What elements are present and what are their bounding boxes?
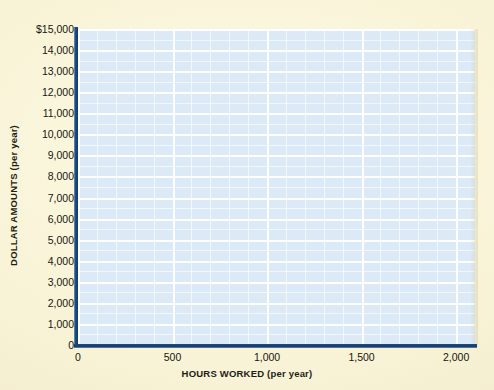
grid-line-vertical-major	[78, 29, 80, 345]
grid-line-horizontal-minor	[78, 313, 475, 314]
grid-line-vertical-minor	[437, 29, 438, 345]
grid-line-horizontal-major	[78, 282, 475, 284]
x-axis-tick-label: 0	[75, 351, 81, 363]
grid-line-vertical-minor	[210, 29, 211, 345]
y-axis-tick-label: 0	[14, 339, 74, 351]
y-axis-tick-label: 12,000	[14, 86, 74, 98]
grid-line-vertical-minor	[135, 29, 136, 345]
y-axis-tick-label: 7,000	[14, 192, 74, 204]
grid-line-horizontal-minor	[78, 145, 475, 146]
x-axis-tick-label: 500	[164, 351, 182, 363]
y-axis-tick-label: 1,000	[14, 318, 74, 330]
grid-line-horizontal-major	[78, 29, 475, 31]
grid-line-vertical-minor	[380, 29, 381, 345]
grid-line-horizontal-major	[78, 71, 475, 73]
y-axis-tick-label: 5,000	[14, 234, 74, 246]
grid-line-horizontal-major	[78, 198, 475, 200]
y-axis-tick-label: 6,000	[14, 213, 74, 225]
y-axis-tick-label: 14,000	[14, 44, 74, 56]
grid-line-vertical-minor	[248, 29, 249, 345]
grid-line-horizontal-major	[78, 303, 475, 305]
grid-line-horizontal-minor	[78, 82, 475, 83]
grid-line-horizontal-major	[78, 155, 475, 157]
grid-line-horizontal-major	[78, 50, 475, 52]
grid-line-horizontal-major	[78, 176, 475, 178]
grid-line-horizontal-minor	[78, 229, 475, 230]
y-axis-tick-label: 2,000	[14, 297, 74, 309]
y-axis-tick-label: 3,000	[14, 276, 74, 288]
grid-line-vertical-minor	[154, 29, 155, 345]
y-axis-tick-labels: 01,0002,0003,0004,0005,0006,0007,0008,00…	[14, 0, 74, 390]
grid-line-vertical-major	[173, 29, 175, 345]
x-axis-title-main: HOURS WORKED	[182, 368, 265, 379]
grid-line-vertical-minor	[305, 29, 306, 345]
grid-line-horizontal-minor	[78, 292, 475, 293]
x-axis-tick-label: 1,000	[254, 351, 280, 363]
grid-line-horizontal-minor	[78, 208, 475, 209]
grid-line-vertical-minor	[418, 29, 419, 345]
grid-line-vertical-major	[267, 29, 269, 345]
grid-line-vertical-minor	[116, 29, 117, 345]
y-axis-tick-label: 4,000	[14, 255, 74, 267]
grid-line-horizontal-major	[78, 92, 475, 94]
grid	[78, 29, 475, 345]
x-axis-tick-label: 1,500	[348, 351, 374, 363]
grid-line-horizontal-major	[78, 219, 475, 221]
grid-line-horizontal-major	[78, 324, 475, 326]
y-axis-line	[74, 27, 78, 348]
grid-line-horizontal-major	[78, 134, 475, 136]
x-axis-tick-label: 2,000	[443, 351, 469, 363]
grid-line-horizontal-minor	[78, 250, 475, 251]
x-axis-tick-labels: 05001,0001,5002,000	[0, 351, 494, 367]
y-axis-tick-label: 9,000	[14, 149, 74, 161]
grid-line-horizontal-minor	[78, 334, 475, 335]
grid-line-vertical-minor	[324, 29, 325, 345]
x-axis-title: HOURS WORKED (per year)	[0, 368, 494, 379]
grid-line-horizontal-minor	[78, 124, 475, 125]
grid-line-horizontal-minor	[78, 271, 475, 272]
grid-line-vertical-minor	[229, 29, 230, 345]
y-axis-tick-label: 11,000	[14, 107, 74, 119]
grid-line-horizontal-major	[78, 113, 475, 115]
grid-line-vertical-major	[456, 29, 458, 345]
grid-line-horizontal-minor	[78, 40, 475, 41]
grid-line-vertical-minor	[97, 29, 98, 345]
plot-area	[78, 29, 475, 345]
grid-line-vertical-minor	[286, 29, 287, 345]
y-axis-tick-label: 8,000	[14, 170, 74, 182]
grid-line-horizontal-minor	[78, 187, 475, 188]
grid-line-horizontal-minor	[78, 103, 475, 104]
y-axis-tick-label: 10,000	[14, 128, 74, 140]
grid-line-vertical-minor	[399, 29, 400, 345]
grid-line-horizontal-major	[78, 240, 475, 242]
x-axis-line	[74, 344, 477, 348]
grid-line-horizontal-minor	[78, 166, 475, 167]
grid-line-horizontal-minor	[78, 61, 475, 62]
grid-line-vertical-minor	[343, 29, 344, 345]
grid-line-vertical-minor	[191, 29, 192, 345]
y-axis-tick-label: $15,000	[14, 23, 74, 35]
grid-line-vertical-major	[362, 29, 364, 345]
grid-line-horizontal-major	[78, 261, 475, 263]
x-axis-title-unit: (per year)	[267, 368, 312, 379]
y-axis-tick-label: 13,000	[14, 65, 74, 77]
